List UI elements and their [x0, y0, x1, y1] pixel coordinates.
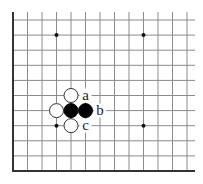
star-point-icon [142, 124, 146, 128]
go-board-diagram: abc [0, 0, 203, 184]
white-stone-icon [50, 104, 64, 118]
point-label-a: a [82, 87, 89, 103]
board-grid [12, 12, 195, 172]
white-stone-icon [64, 119, 78, 133]
star-point-icon [55, 33, 59, 37]
point-label-b: b [96, 102, 104, 118]
point-label-c: c [82, 117, 89, 133]
black-stone-icon [79, 104, 93, 118]
white-stone-icon [64, 89, 78, 103]
star-point-icon [55, 124, 59, 128]
black-stone-icon [64, 104, 78, 118]
star-point-icon [142, 33, 146, 37]
